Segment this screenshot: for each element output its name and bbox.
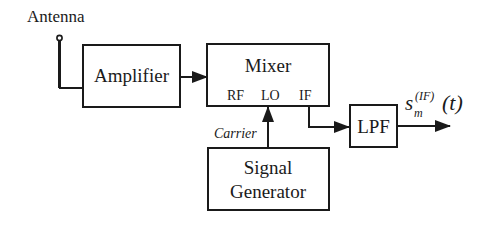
output-superscript: (IF)	[415, 89, 434, 103]
if-to-lpf-arrow	[309, 106, 349, 127]
antenna: Antenna	[27, 7, 85, 88]
lpf-block: LPF	[350, 105, 397, 147]
output-s: s	[405, 91, 413, 115]
lpf-label: LPF	[357, 116, 390, 137]
output-subscript: m	[414, 106, 423, 120]
mixer-port-lo: LO	[261, 88, 280, 103]
mixer-label: Mixer	[245, 55, 292, 76]
signal-generator-block: Signal Generator	[208, 148, 329, 210]
signal-generator-label-line1: Signal	[244, 157, 293, 178]
mixer-port-if: IF	[299, 88, 312, 103]
carrier-label: Carrier	[214, 126, 257, 141]
mixer-block: Mixer RF LO IF	[207, 44, 329, 106]
antenna-tip-icon	[57, 35, 62, 40]
block-diagram: Antenna Amplifier Mixer RF LO IF Carrier…	[0, 0, 492, 230]
mixer-port-rf: RF	[227, 88, 244, 103]
antenna-label: Antenna	[27, 7, 85, 26]
amplifier-label: Amplifier	[94, 65, 170, 86]
signal-generator-label-line2: Generator	[230, 181, 307, 202]
output-argument: (t)	[442, 90, 463, 115]
output-signal-label: s m (IF) (t)	[405, 89, 463, 120]
amplifier-block: Amplifier	[83, 45, 180, 107]
